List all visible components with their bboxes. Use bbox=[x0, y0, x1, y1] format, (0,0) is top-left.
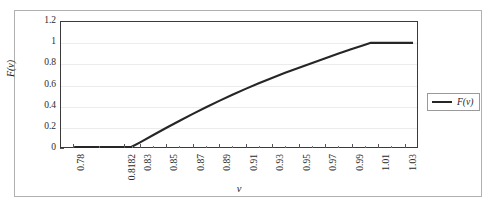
x-axis-tick-mark bbox=[246, 144, 247, 148]
y-axis-label: F(v) bbox=[5, 60, 16, 77]
x-axis-tick-label: 0.87 bbox=[197, 154, 207, 171]
x-axis-minor-tick-mark bbox=[132, 146, 133, 149]
x-axis-tick-label: 0.95 bbox=[303, 154, 313, 171]
x-axis-tick-mark bbox=[166, 144, 167, 148]
y-axis-tick-label: 0.4 bbox=[44, 101, 56, 111]
series-layer bbox=[61, 22, 417, 147]
x-axis-label: v bbox=[60, 183, 418, 194]
legend-line-swatch-icon bbox=[432, 101, 452, 103]
x-axis-tick-mark bbox=[73, 144, 74, 148]
x-axis-tick-mark bbox=[299, 144, 300, 148]
x-axis-minor-tick-mark bbox=[232, 146, 233, 149]
y-axis-tick-label: 0.2 bbox=[44, 122, 56, 132]
x-axis-minor-tick-mark bbox=[338, 146, 339, 149]
x-axis-minor-tick-mark bbox=[312, 146, 313, 149]
plot-area bbox=[60, 21, 418, 148]
x-axis-tick-mark bbox=[352, 144, 353, 148]
x-axis-tick-mark bbox=[378, 144, 379, 148]
x-axis-minor-tick-mark bbox=[206, 146, 207, 149]
y-axis-tick-label: 0.8 bbox=[44, 59, 56, 69]
x-axis-tick-label: 1.01 bbox=[382, 154, 392, 171]
x-axis-tick-label: 0.97 bbox=[329, 154, 339, 171]
x-axis-tick-label: 0.8182 bbox=[128, 154, 138, 180]
x-axis-tick-label: 0.89 bbox=[223, 154, 233, 171]
x-axis-tick-label: 1.03 bbox=[409, 154, 419, 171]
x-axis-minor-tick-mark bbox=[365, 146, 366, 149]
y-axis-tick-labels: 00.20.40.60.811.2 bbox=[23, 21, 56, 148]
chart-canvas: F(v) 00.20.40.60.811.2 0.780.81820.830.8… bbox=[15, 11, 483, 198]
chart-legend: F(v) bbox=[427, 93, 480, 111]
y-axis-tick-label: 0.6 bbox=[44, 80, 56, 90]
x-axis-tick-label: 0.83 bbox=[144, 154, 154, 171]
x-axis-minor-tick-mark bbox=[391, 146, 392, 149]
y-axis-tick-label: 1 bbox=[51, 37, 56, 47]
x-axis-minor-tick-mark bbox=[259, 146, 260, 149]
x-axis-tick-label: 0.78 bbox=[77, 154, 87, 171]
x-axis-tick-mark bbox=[193, 144, 194, 148]
x-axis-tick-mark bbox=[140, 144, 141, 148]
x-axis-tick-label: 0.85 bbox=[170, 154, 180, 171]
x-axis-tick-mark bbox=[272, 144, 273, 148]
x-axis-minor-tick-mark bbox=[153, 146, 154, 149]
x-axis-minor-tick-mark bbox=[99, 146, 100, 149]
x-axis-tick-mark bbox=[405, 144, 406, 148]
y-axis-tick-label: 0 bbox=[51, 143, 56, 153]
x-axis-minor-tick-mark bbox=[285, 146, 286, 149]
x-axis-minor-tick-mark bbox=[179, 146, 180, 149]
x-axis-tick-mark bbox=[325, 144, 326, 148]
x-axis-tick-mark bbox=[124, 144, 125, 148]
x-axis-tick-label: 0.93 bbox=[276, 154, 286, 171]
y-axis-tick-label: 1.2 bbox=[44, 16, 56, 26]
x-axis-tick-mark bbox=[219, 144, 220, 148]
series-line-F(v) bbox=[74, 43, 413, 147]
x-axis-tick-label: 0.99 bbox=[356, 154, 366, 171]
figure-frame: F(v) 00.20.40.60.811.2 0.780.81820.830.8… bbox=[14, 10, 482, 197]
legend-entry-label: F(v) bbox=[457, 97, 473, 107]
x-axis-tick-label: 0.91 bbox=[250, 154, 260, 171]
